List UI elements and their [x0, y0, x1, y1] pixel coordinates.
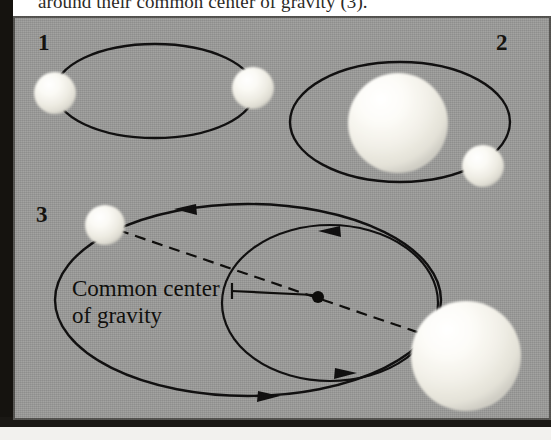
- common-center-label-line2: of gravity: [72, 303, 163, 328]
- orbit-ellipse-1: [55, 44, 255, 138]
- arrow-inner-top: [318, 226, 341, 237]
- page-margin-bottom: [0, 427, 551, 440]
- figure-plate: 1 2: [13, 16, 551, 420]
- star-companion-small: [462, 145, 504, 187]
- panel-2: 2: [290, 30, 510, 187]
- panel-number-3: 3: [36, 202, 48, 227]
- common-center-label-line1: Common center: [72, 276, 220, 301]
- figure-caption-truncated: around their common center of gravity (3…: [0, 0, 551, 13]
- label-leader-line: [232, 291, 314, 295]
- star-right-equal: [232, 67, 274, 109]
- star-massive: [348, 73, 448, 173]
- arrow-outer-top: [174, 204, 197, 215]
- panel-number-1: 1: [38, 30, 50, 55]
- star-large-orbiting: [411, 301, 521, 411]
- diagram-canvas: 1 2: [13, 16, 551, 420]
- page-edge-left: [0, 0, 13, 425]
- panel-3: 3 Common center of gravity: [36, 202, 521, 411]
- star-left-equal: [34, 72, 76, 114]
- caption-text: around their common center of gravity (3…: [0, 0, 551, 13]
- illustration-page: around their common center of gravity (3…: [0, 0, 551, 440]
- panel-number-2: 2: [496, 30, 508, 55]
- arrow-outer-bottom: [257, 391, 280, 402]
- barycentre-dot: [312, 291, 324, 303]
- arrow-inner-bottom: [334, 368, 357, 379]
- star-small-orbiting: [85, 205, 125, 245]
- panel-1: 1: [34, 30, 274, 138]
